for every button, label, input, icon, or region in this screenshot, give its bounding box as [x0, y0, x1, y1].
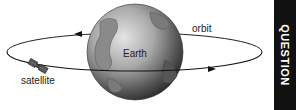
question-sidebar: QUESTION: [274, 0, 296, 110]
arrow-left-icon: [74, 31, 82, 37]
earth-label: Earth: [123, 48, 147, 59]
orbit-diagram: [0, 0, 296, 110]
satellite-label: satellite: [21, 75, 55, 86]
question-label: QUESTION: [279, 24, 291, 85]
orbit-label: orbit: [192, 23, 211, 34]
